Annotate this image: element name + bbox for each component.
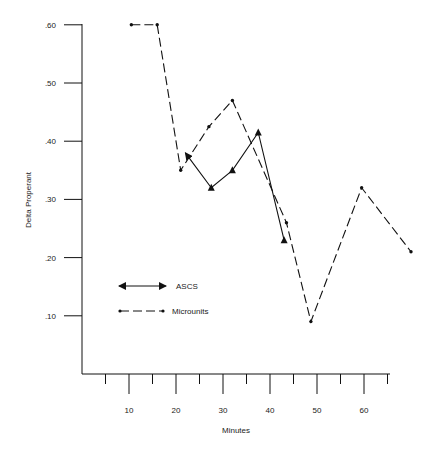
- triangle-marker-icon: [281, 236, 288, 243]
- y-axis-ticks: .10.20.30.40.50.60: [45, 21, 82, 321]
- dot-marker-icon: [161, 309, 164, 312]
- triangle-marker-icon: [255, 128, 262, 135]
- y-tick-label: .40: [45, 137, 57, 146]
- x-tick-label: 50: [313, 406, 322, 415]
- y-tick-label: .30: [45, 195, 57, 204]
- x-tick-label: 40: [266, 406, 275, 415]
- dot-marker-icon: [309, 320, 312, 323]
- series-microunits-line: [131, 25, 411, 322]
- y-axis-title: Delta Properant: [24, 171, 33, 228]
- y-axis: .10.20.30.40.50.60: [45, 21, 82, 374]
- y-tick-label: .60: [45, 21, 57, 30]
- y-tick-label: .50: [45, 79, 57, 88]
- series-ascs-line: [185, 132, 284, 240]
- dot-marker-icon: [130, 23, 133, 26]
- legend-item-microunits: Microunits: [118, 307, 208, 316]
- legend-label-microunits: Microunits: [172, 307, 208, 316]
- legend-item-ascs: ASCS: [119, 282, 198, 291]
- dot-marker-icon: [156, 23, 159, 26]
- series-layer: [130, 23, 413, 323]
- dot-marker-icon: [207, 125, 210, 128]
- dot-marker-icon: [409, 250, 412, 253]
- legend: ASCS Microunits: [118, 282, 208, 316]
- dot-marker-icon: [231, 99, 234, 102]
- x-tick-label: 60: [360, 406, 369, 415]
- y-tick-label: .10: [45, 312, 57, 321]
- x-axis-ticks: 102030405060: [106, 374, 388, 415]
- x-axis: 102030405060: [82, 374, 390, 415]
- legend-label-ascs: ASCS: [176, 282, 198, 291]
- x-axis-title: Minutes: [222, 426, 250, 435]
- dot-marker-icon: [360, 186, 363, 189]
- line-chart: .10.20.30.40.50.60 102030405060 Minutes …: [0, 0, 437, 455]
- dot-marker-icon: [285, 221, 288, 224]
- y-tick-label: .20: [45, 254, 57, 263]
- x-tick-label: 30: [219, 406, 228, 415]
- dot-marker-icon: [118, 309, 121, 312]
- dot-marker-icon: [179, 169, 182, 172]
- x-tick-label: 20: [172, 406, 181, 415]
- x-tick-label: 10: [125, 406, 134, 415]
